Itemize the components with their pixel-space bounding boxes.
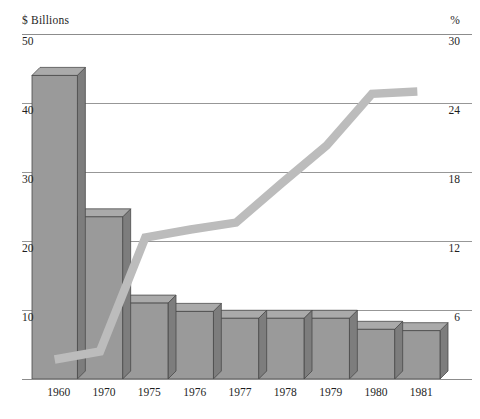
right-tick-24: 24 bbox=[449, 104, 461, 116]
right-tick-12: 12 bbox=[449, 242, 461, 254]
chart-figure: $ Billions % 5040302010 302418126 196019… bbox=[0, 0, 480, 419]
right-tick-6: 6 bbox=[454, 311, 460, 323]
x-tick-1977: 1977 bbox=[229, 386, 252, 398]
left-tick-50: 50 bbox=[22, 35, 34, 47]
left-tick-20: 20 bbox=[22, 242, 34, 254]
x-tick-1970: 1970 bbox=[93, 386, 116, 398]
left-tick-40: 40 bbox=[22, 104, 34, 116]
x-tick-1981: 1981 bbox=[410, 386, 433, 398]
x-tick-1980: 1980 bbox=[365, 386, 388, 398]
bar-1960 bbox=[32, 67, 85, 379]
right-tick-18: 18 bbox=[449, 173, 461, 185]
left-tick-30: 30 bbox=[22, 173, 34, 185]
x-tick-1975: 1975 bbox=[138, 386, 161, 398]
chart-plot-area bbox=[0, 0, 480, 419]
right-tick-30: 30 bbox=[449, 35, 461, 47]
left-tick-10: 10 bbox=[22, 311, 34, 323]
x-tick-1979: 1979 bbox=[319, 386, 342, 398]
x-tick-1976: 1976 bbox=[183, 386, 206, 398]
x-tick-1960: 1960 bbox=[47, 386, 70, 398]
x-tick-1978: 1978 bbox=[274, 386, 297, 398]
